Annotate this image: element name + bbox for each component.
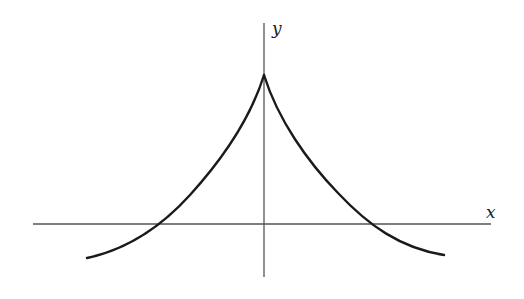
y-axis-label: y <box>271 18 282 38</box>
x-axis-label: x <box>486 202 496 222</box>
curve-left-branch <box>87 75 264 258</box>
graph-canvas: y x <box>0 0 524 299</box>
curve-right-branch <box>264 75 444 255</box>
